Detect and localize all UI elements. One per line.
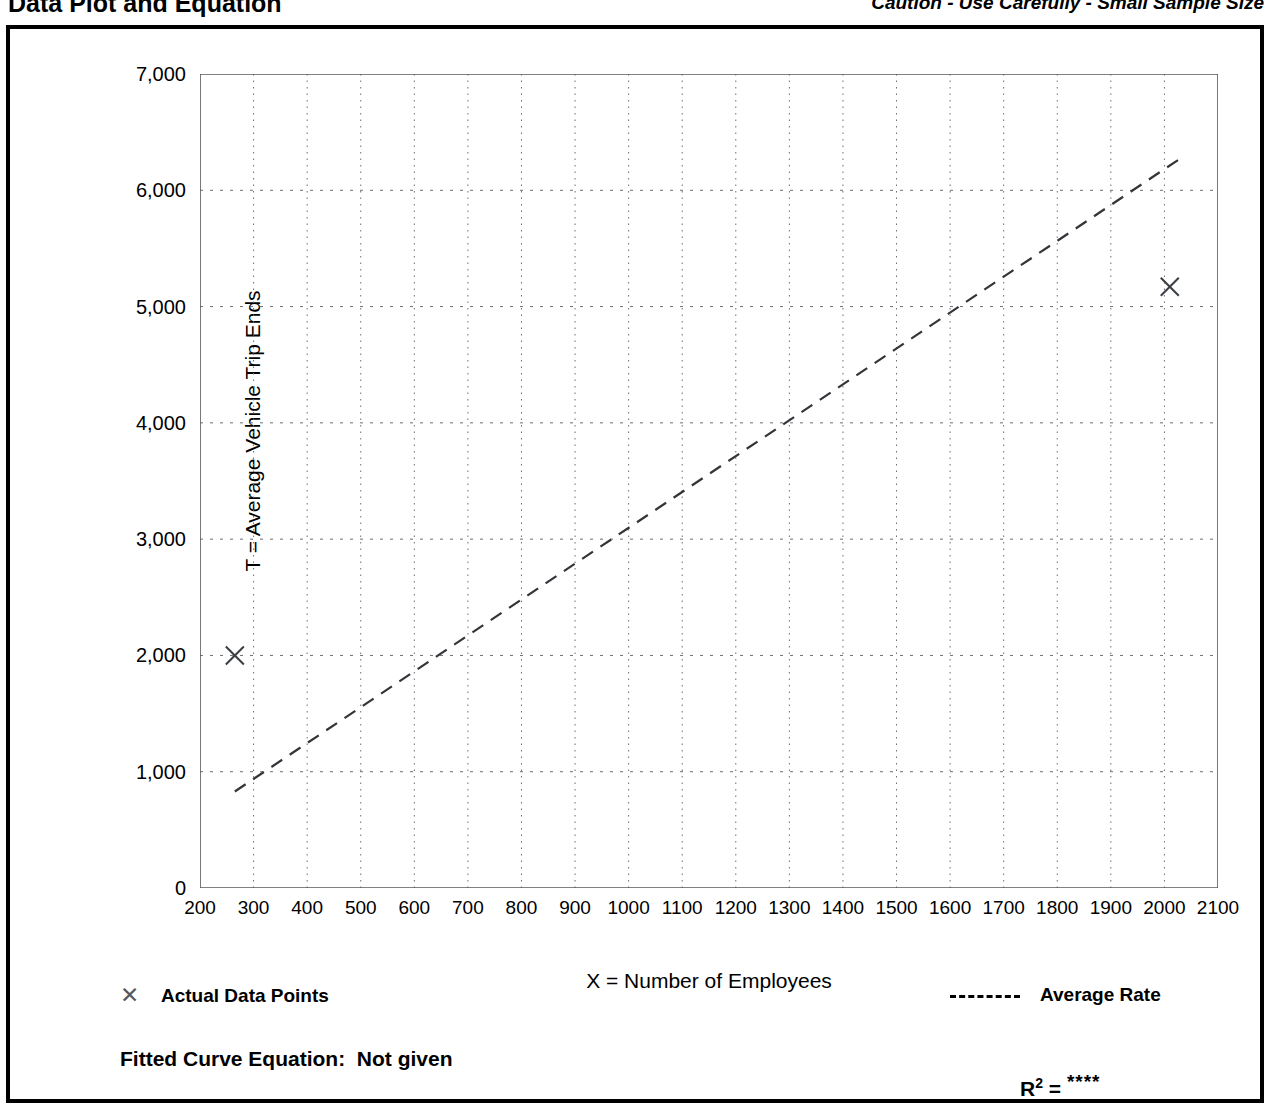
r-squared-symbol: R xyxy=(1020,1077,1035,1100)
actual-data-points xyxy=(226,278,1179,665)
fitted-curve-equation: Fitted Curve Equation: Not given xyxy=(120,1047,453,1071)
axis-ticks xyxy=(200,74,1218,888)
y-tick-label: 2,000 xyxy=(66,645,186,665)
cross-marker-icon: ✕ xyxy=(120,984,139,1007)
y-tick-label: 6,000 xyxy=(66,180,186,200)
plot-canvas xyxy=(200,74,1218,888)
y-tick-label: 0 xyxy=(66,878,186,898)
y-tick-label: 7,000 xyxy=(66,64,186,84)
legend-label-average-rate: Average Rate xyxy=(1040,984,1161,1006)
footer: Fitted Curve Equation: Not given R2 = **… xyxy=(10,1047,1268,1087)
chart-frame: T = Average Vehicle Trip Ends X = Number… xyxy=(6,25,1264,1103)
page-title: Data Plot and Equation xyxy=(8,0,282,18)
r-squared-exponent: 2 xyxy=(1035,1075,1043,1091)
dashed-line-icon xyxy=(950,995,1020,998)
y-tick-label: 3,000 xyxy=(66,529,186,549)
caution-note: Caution - Use Carefully - Small Sample S… xyxy=(871,0,1264,14)
header-strip: Data Plot and Equation Caution - Use Car… xyxy=(0,0,1274,24)
plot-area xyxy=(200,74,1218,888)
y-tick-label: 4,000 xyxy=(66,413,186,433)
y-tick-label: 5,000 xyxy=(66,297,186,317)
r-squared-equals: = xyxy=(1043,1077,1067,1100)
average-rate-line xyxy=(235,157,1183,792)
plot-region: T = Average Vehicle Trip Ends X = Number… xyxy=(200,74,1218,888)
r-squared-value: R2 = **** xyxy=(985,1047,1101,1115)
x-tick-label: 2100 xyxy=(1178,898,1258,918)
legend: ✕ Actual Data Points Average Rate xyxy=(10,984,1268,1024)
grid-lines xyxy=(200,74,1218,888)
legend-item-actual-data-points: ✕ Actual Data Points xyxy=(120,984,329,1007)
axis-lines xyxy=(200,74,1218,888)
r-squared-stars: **** xyxy=(1067,1071,1101,1092)
legend-label-actual-data-points: Actual Data Points xyxy=(161,985,329,1007)
y-tick-label: 1,000 xyxy=(66,762,186,782)
legend-item-average-rate: Average Rate xyxy=(950,984,1161,1006)
